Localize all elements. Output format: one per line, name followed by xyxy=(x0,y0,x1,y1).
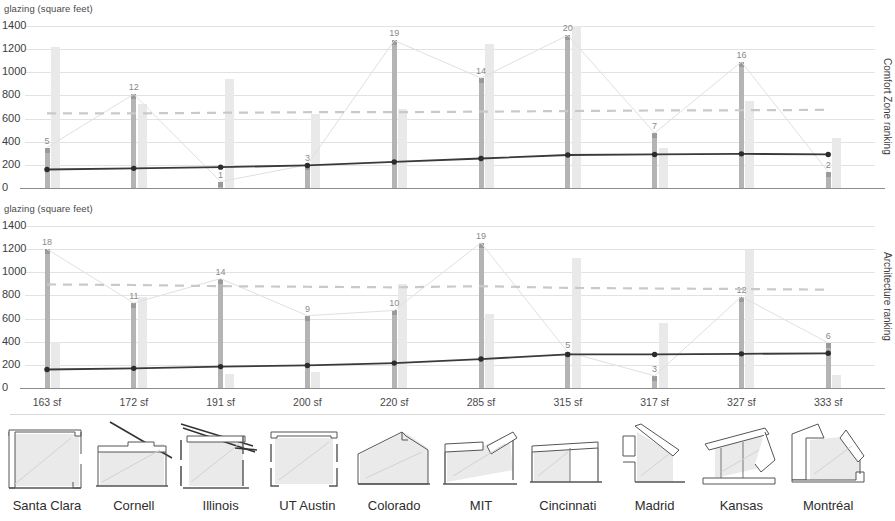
glazing-bar xyxy=(51,47,60,188)
glazing-bar xyxy=(659,323,668,388)
ranking-bar xyxy=(739,297,744,388)
section-school-label: Montréal xyxy=(785,498,871,513)
y-axis-tick-label: 0 xyxy=(2,182,8,193)
ranking-connector-line xyxy=(47,243,828,376)
ranking-bar-cap xyxy=(826,172,831,177)
ranking-bar xyxy=(652,133,657,188)
y-axis-tick-label: 1000 xyxy=(2,66,26,77)
section-mit-icon xyxy=(439,420,523,496)
ranking-value-label: 14 xyxy=(216,268,226,277)
ranking-bar xyxy=(45,148,50,189)
section-montreal-icon xyxy=(786,420,870,496)
y-axis-tick-label: 200 xyxy=(2,359,20,370)
glazing-bar xyxy=(745,250,754,388)
ranking-bar-cap xyxy=(218,182,223,187)
ranking-value-label: 2 xyxy=(826,161,831,170)
trend-line xyxy=(47,353,828,369)
section-school-label: MIT xyxy=(438,498,524,513)
section-school-label: Madrid xyxy=(612,498,698,513)
ranking-value-label: 18 xyxy=(42,238,52,247)
glazing-bar xyxy=(832,138,841,188)
section-colorado-icon xyxy=(352,420,436,496)
glazing-bar xyxy=(398,109,407,188)
y-axis-tick-label: 400 xyxy=(2,336,20,347)
ranking-bar-cap xyxy=(305,165,310,170)
ranking-value-label: 3 xyxy=(305,154,310,163)
ranking-value-label: 1 xyxy=(218,171,223,180)
ranking-bar-cap xyxy=(218,279,223,284)
ranking-bar xyxy=(392,40,397,188)
section-illinois-icon xyxy=(179,420,263,496)
y-axis-tick-label: 1400 xyxy=(2,220,26,231)
section-school-label: Kansas xyxy=(698,498,784,513)
section-entry: 315 sfCincinnati xyxy=(525,396,611,513)
ranking-value-label: 5 xyxy=(44,137,49,146)
section-area-label: 327 sf xyxy=(698,396,784,408)
section-entry: 200 sfUT Austin xyxy=(264,396,350,513)
dashed-reference-line xyxy=(47,110,828,113)
glazing-bar xyxy=(572,258,581,388)
section-madrid-icon xyxy=(613,420,697,496)
glazing-bar xyxy=(225,79,234,188)
glazing-bar xyxy=(485,314,494,388)
x-axis-baseline xyxy=(20,388,885,389)
ranking-bar-cap xyxy=(392,310,397,315)
section-thumbnail-row: 163 sfSanta Clara172 sfCornell191 sfIlli… xyxy=(0,396,895,521)
section-kansas-icon xyxy=(699,420,783,496)
y-axis-tick-label: 1200 xyxy=(2,243,26,254)
y-axis-tick-label: 1000 xyxy=(2,266,26,277)
glazing-bar xyxy=(51,342,60,388)
section-area-label: 285 sf xyxy=(438,396,524,408)
section-area-label: 315 sf xyxy=(525,396,611,408)
ranking-bar xyxy=(826,343,831,388)
ranking-bar-cap xyxy=(479,243,484,248)
comfort-zone-chart: glazing (square feet) 140012001000800600… xyxy=(0,0,895,196)
section-entry: 220 sfColorado xyxy=(351,396,437,513)
chart-bottom-right-axis-label: Architecture ranking xyxy=(882,252,893,341)
section-school-label: UT Austin xyxy=(264,498,350,513)
y-axis-tick-label: 600 xyxy=(2,313,20,324)
y-axis-tick-label: 400 xyxy=(2,136,20,147)
gridline xyxy=(25,226,875,227)
section-area-label: 317 sf xyxy=(612,396,698,408)
ranking-value-label: 16 xyxy=(736,51,746,60)
section-school-label: Illinois xyxy=(178,498,264,513)
ranking-bar xyxy=(131,303,136,388)
glazing-bar xyxy=(659,148,668,188)
section-area-label: 200 sf xyxy=(264,396,350,408)
glazing-bar xyxy=(745,101,754,188)
glazing-bar xyxy=(225,374,234,388)
section-cincinnati-icon xyxy=(526,420,610,496)
section-school-label: Colorado xyxy=(351,498,437,513)
y-axis-tick-label: 800 xyxy=(2,89,20,100)
dashed-reference-line xyxy=(47,284,828,289)
glazing-bar xyxy=(398,284,407,388)
ranking-bar-cap xyxy=(739,297,744,302)
ranking-value-label: 14 xyxy=(476,67,486,76)
ranking-value-label: 7 xyxy=(652,122,657,131)
ranking-bar xyxy=(131,94,136,188)
ranking-value-label: 12 xyxy=(129,83,139,92)
ranking-bar-cap xyxy=(305,316,310,321)
ranking-bar-cap xyxy=(45,249,50,254)
ranking-bar xyxy=(45,249,50,388)
section-entry: 191 sfIllinois xyxy=(178,396,264,513)
y-axis-tick-label: 0 xyxy=(2,382,8,393)
ranking-value-label: 19 xyxy=(389,29,399,38)
y-axis-tick-label: 600 xyxy=(2,113,20,124)
y-axis-tick-label: 800 xyxy=(2,289,20,300)
section-entry: 163 sfSanta Clara xyxy=(4,396,90,513)
ranking-bar-cap xyxy=(131,303,136,308)
section-school-label: Santa Clara xyxy=(4,498,90,513)
ranking-bar xyxy=(305,316,310,388)
section-area-label: 163 sf xyxy=(4,396,90,408)
glazing-bar xyxy=(311,372,320,388)
ranking-value-label: 11 xyxy=(129,292,138,301)
section-area-label: 172 sf xyxy=(91,396,177,408)
gridline xyxy=(25,72,875,73)
glazing-bar xyxy=(485,44,494,188)
chart-top-right-axis-label: Comfort Zone ranking xyxy=(882,58,893,155)
architecture-chart: glazing (square feet) 140012001000800600… xyxy=(0,200,895,396)
ranking-connector-line xyxy=(47,35,828,181)
ranking-value-label: 19 xyxy=(476,232,486,241)
